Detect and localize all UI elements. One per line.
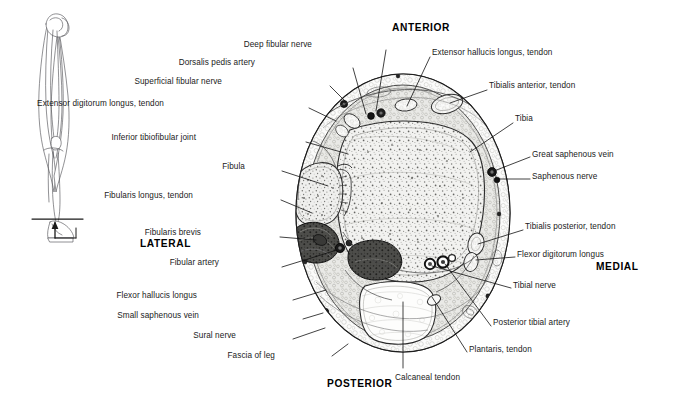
orientation-label-anterior: ANTERIOR [392, 22, 450, 33]
anatomy-figure [0, 0, 691, 407]
orientation-label-posterior: POSTERIOR [327, 378, 392, 389]
orientation-label-medial: MEDIAL [596, 261, 639, 272]
label-fibula: Fibula [185, 162, 245, 172]
label-small-saphenous-vein: Small saphenous vein [79, 311, 199, 321]
label-superficial-fibular-nerve: Superficial fibular nerve [82, 77, 222, 87]
sural-nerve-structure [324, 324, 330, 330]
label-flexor-digitorum-longus: Flexor digitorum longus [517, 250, 604, 260]
saphenous-nerve-structure [494, 177, 500, 183]
label-sural-nerve: Sural nerve [166, 331, 236, 341]
figure-page: ANTERIOR POSTERIOR LATERAL MEDIAL Deep f… [0, 0, 691, 407]
label-fibularis-longus-tendon: Fibularis longus, tendon [103, 191, 193, 201]
label-plantaris-tendon: Plantaris, tendon [469, 345, 532, 355]
label-fibularis-brevis: Fibularis brevis [111, 228, 201, 238]
label-fascia-of-leg: Fascia of leg [200, 351, 275, 361]
label-extensor-digitorum-longus-tendon: Extensor digitorum longus, tendon [14, 99, 164, 109]
label-great-saphenous-vein: Great saphenous vein [532, 150, 614, 160]
deep-fibular-nerve-structure [368, 113, 375, 120]
tibial-nerve-structure [425, 259, 435, 269]
label-inferior-tibiofibular-joint: Inferior tibiofibular joint [66, 133, 196, 143]
label-posterior-tibial-artery: Posterior tibial artery [493, 318, 570, 328]
label-calcaneal-tendon: Calcaneal tendon [395, 373, 460, 383]
label-tibialis-posterior-tendon: Tibialis posterior, tendon [525, 222, 616, 232]
dorsalis-pedis-artery-structure [377, 109, 385, 117]
label-flexor-hallucis-longus: Flexor hallucis longus [77, 291, 197, 301]
label-saphenous-nerve: Saphenous nerve [532, 172, 597, 182]
label-tibialis-anterior-tendon: Tibialis anterior, tendon [489, 81, 575, 91]
label-tibia: Tibia [515, 114, 533, 124]
label-deep-fibular-nerve: Deep fibular nerve [192, 40, 312, 50]
label-extensor-hallucis-longus-tendon: Extensor hallucis longus, tendon [432, 48, 552, 58]
great-saphenous-vein-structure [488, 168, 497, 177]
label-dorsalis-pedis-artery: Dorsalis pedis artery [125, 58, 255, 68]
label-tibial-nerve: Tibial nerve [513, 281, 556, 291]
flexor-hallucis-longus-structure [348, 240, 402, 280]
orientation-label-lateral: LATERAL [140, 238, 191, 249]
leg-orientation-diagram [32, 14, 83, 242]
label-fibular-artery: Fibular artery [139, 258, 219, 268]
